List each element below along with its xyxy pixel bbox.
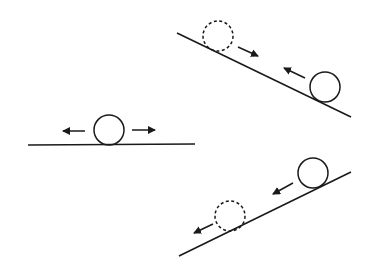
motion-arrow-icon xyxy=(284,68,305,78)
ball xyxy=(310,72,340,102)
ghost-ball xyxy=(215,201,245,231)
motion-arrow-icon xyxy=(273,183,293,194)
surface-line xyxy=(177,33,351,117)
motion-arrow-icon xyxy=(238,47,258,56)
surface-line xyxy=(179,172,351,256)
scene-incline-up-right xyxy=(179,158,351,256)
ghost-ball xyxy=(203,21,233,51)
scene-flat xyxy=(28,115,195,145)
physics-diagram xyxy=(0,0,373,274)
diagram-canvas xyxy=(0,0,373,274)
ball xyxy=(94,115,124,145)
ball xyxy=(298,158,328,188)
scene-incline-down-right xyxy=(177,21,351,117)
motion-arrow-icon xyxy=(194,224,213,233)
